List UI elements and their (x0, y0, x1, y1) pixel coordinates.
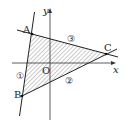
label-b: B (14, 89, 21, 100)
coordinate-diagram: A B C O x y ① ② ③ (0, 0, 127, 135)
label-c: C (104, 42, 112, 53)
label-y-axis: y (42, 5, 49, 16)
label-line-2: ② (65, 76, 73, 86)
label-origin: O (42, 65, 50, 76)
point-a (31, 33, 34, 36)
label-x-axis: x (113, 64, 119, 75)
shaded-region (22, 34, 106, 96)
label-a: A (22, 24, 31, 35)
label-line-3: ③ (67, 34, 75, 44)
point-c (105, 53, 108, 56)
label-line-1: ① (16, 71, 24, 81)
